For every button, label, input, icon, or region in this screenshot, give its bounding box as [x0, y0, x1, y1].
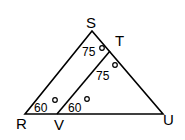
- degree-icon: [100, 46, 105, 51]
- label-r: R: [16, 115, 27, 132]
- label-v: V: [54, 116, 64, 133]
- label-u: U: [163, 111, 174, 128]
- degree-icon: [85, 97, 90, 102]
- label-t: T: [115, 32, 124, 49]
- angle-r-label: 60: [34, 101, 48, 115]
- angle-s-label: 75: [82, 45, 96, 59]
- angle-v-label: 60: [68, 101, 82, 115]
- geometry-diagram: S T R V U 75 75 60 60: [0, 0, 185, 140]
- label-s: S: [86, 14, 96, 31]
- angle-t-label: 75: [96, 69, 110, 83]
- degree-icon: [113, 63, 118, 68]
- degree-icon: [53, 98, 58, 103]
